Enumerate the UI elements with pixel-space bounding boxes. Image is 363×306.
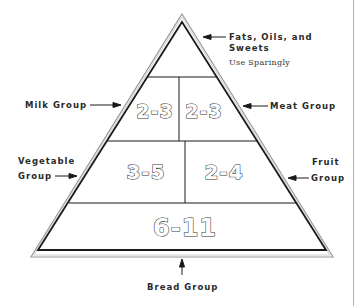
meat-label: Meat Group bbox=[270, 101, 336, 111]
fruit-servings: 2-4 bbox=[204, 160, 243, 184]
milk-label: Milk Group bbox=[25, 100, 87, 110]
fats-note: Use Sparingly bbox=[229, 58, 290, 67]
arrow-icon-fats bbox=[203, 35, 226, 40]
vegetable-servings: 3-5 bbox=[126, 160, 165, 184]
arrow-icon-meat bbox=[243, 104, 268, 109]
arrow-icon-fruit bbox=[288, 176, 309, 181]
fruit-label-line1: Fruit bbox=[312, 157, 339, 167]
milk-servings: 2-3 bbox=[136, 100, 173, 122]
food-pyramid-diagram: 2-3 2-3 3-5 2-4 6-11 Fats bbox=[0, 0, 363, 306]
pyramid-graphic: 2-3 2-3 3-5 2-4 6-11 bbox=[0, 0, 363, 306]
arrow-icon-milk bbox=[90, 103, 121, 108]
fats-label-line2: Sweets bbox=[229, 43, 270, 53]
arrow-icon-bread bbox=[180, 259, 185, 275]
fats-label-line1: Fats, Oils, and bbox=[229, 32, 313, 42]
vegetable-label-line2: Group bbox=[18, 171, 52, 181]
page-edge-divider bbox=[353, 0, 354, 306]
fruit-label-line2: Group bbox=[311, 173, 345, 183]
bread-label: Bread Group bbox=[147, 282, 218, 292]
vegetable-label-line1: Vegetable bbox=[18, 156, 75, 166]
arrow-icon-vegetable bbox=[55, 174, 77, 179]
bread-servings: 6-11 bbox=[153, 214, 217, 242]
meat-servings: 2-3 bbox=[185, 100, 222, 122]
